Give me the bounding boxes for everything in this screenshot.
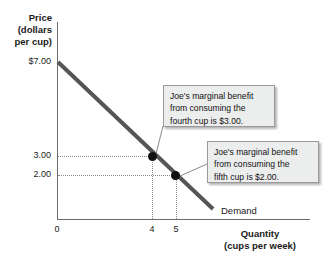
demand-curve-label: Demand [221, 205, 257, 216]
data-point-fifth-cup [171, 171, 180, 180]
demand-curve-svg [0, 0, 323, 263]
callout-fifth-cup: Joe's marginal benefit from consuming th… [207, 141, 319, 183]
callout-fifth-line-3: fifth cup is $2.00. [214, 171, 312, 183]
callout-fourth-line-3: fourth cup is $3.00. [170, 115, 268, 127]
demand-curve-chart: Price (dollars per cup) Quantity (cups p… [0, 0, 323, 263]
callout-fourth-cup: Joe's marginal benefit from consuming th… [163, 85, 275, 127]
callout-fourth-line-1: Joe's marginal benefit [170, 90, 268, 102]
data-point-fourth-cup [148, 152, 157, 161]
leader-line-fifth [180, 164, 207, 176]
callout-fourth-line-2: from consuming the [170, 102, 268, 114]
callout-fifth-line-1: Joe's marginal benefit [214, 146, 312, 158]
callout-fifth-line-2: from consuming the [214, 158, 312, 170]
